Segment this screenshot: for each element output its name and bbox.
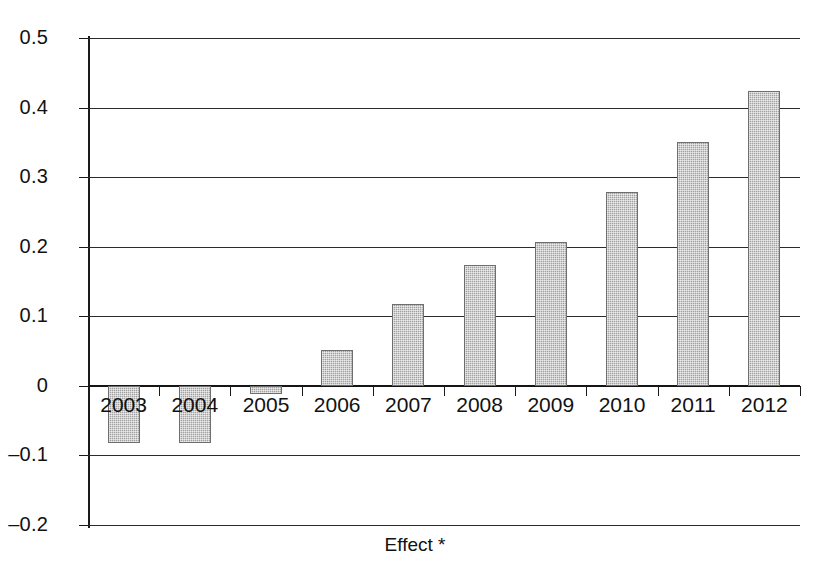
- bar-2011[interactable]: [677, 142, 709, 386]
- x-axis-label-2011: 2011: [653, 394, 733, 416]
- y-axis-tick: [79, 108, 88, 109]
- x-axis-label-2009: 2009: [511, 394, 591, 416]
- x-axis-title: Effect *: [0, 534, 830, 556]
- x-axis-label-2003: 2003: [84, 394, 164, 416]
- x-axis-label-2010: 2010: [582, 394, 662, 416]
- y-axis-tick: [79, 525, 88, 526]
- gridline: [88, 455, 800, 456]
- y-axis-tick: [79, 455, 88, 456]
- bar-2006[interactable]: [321, 350, 353, 385]
- x-axis-label-2005: 2005: [226, 394, 306, 416]
- y-axis-tick: [79, 177, 88, 178]
- y-axis-tick: [79, 247, 88, 248]
- bar-2008[interactable]: [464, 265, 496, 385]
- bar-2009[interactable]: [535, 242, 567, 386]
- y-axis-label: 0.4: [0, 97, 48, 117]
- bar-2010[interactable]: [606, 192, 638, 385]
- gridline: [88, 108, 800, 109]
- x-axis-label-2006: 2006: [297, 394, 377, 416]
- x-axis-label-2004: 2004: [155, 394, 235, 416]
- y-axis-label: 0.1: [0, 305, 48, 325]
- y-axis-tick: [79, 316, 88, 317]
- y-axis-label: 0.5: [0, 27, 48, 47]
- plot-area: 0.50.40.30.20.10–0.1–0.22003200420052006…: [88, 38, 800, 525]
- gridline: [88, 38, 800, 39]
- bar-chart: 0.50.40.30.20.10–0.1–0.22003200420052006…: [0, 0, 830, 581]
- y-axis-label: 0: [0, 375, 48, 395]
- y-axis-label: –0.1: [0, 444, 48, 464]
- x-axis-label-2012: 2012: [724, 394, 804, 416]
- x-axis-label-2007: 2007: [368, 394, 448, 416]
- x-axis-tick: [800, 386, 801, 396]
- y-axis-label: 0.3: [0, 166, 48, 186]
- y-axis-tick: [79, 386, 88, 387]
- gridline: [88, 525, 800, 526]
- x-axis-label-2008: 2008: [440, 394, 520, 416]
- y-axis-tick: [79, 38, 88, 39]
- bar-2012[interactable]: [748, 91, 780, 386]
- bar-2007[interactable]: [392, 304, 424, 386]
- y-axis-label: 0.2: [0, 236, 48, 256]
- y-axis-label: –0.2: [0, 514, 48, 534]
